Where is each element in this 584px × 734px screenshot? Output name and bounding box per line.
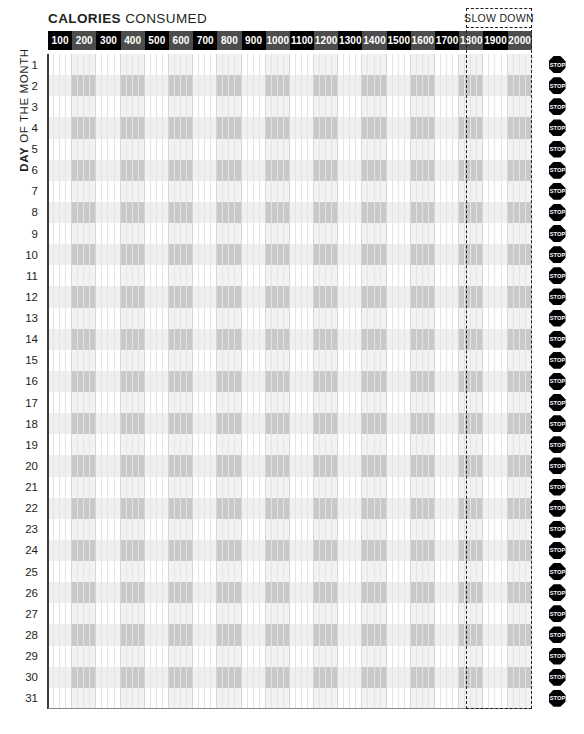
grid-subcell[interactable] [163, 603, 168, 624]
grid-subcell[interactable] [115, 202, 120, 223]
grid-subcell[interactable] [477, 413, 482, 434]
grid-cell[interactable] [435, 96, 459, 117]
table-row[interactable] [48, 54, 532, 75]
grid-cell[interactable] [121, 139, 145, 160]
grid-subcell[interactable] [211, 477, 216, 498]
table-row[interactable] [48, 371, 532, 392]
grid-subcell[interactable] [139, 561, 144, 582]
grid-subcell[interactable] [187, 181, 192, 202]
grid-subcell[interactable] [115, 350, 120, 371]
grid-cell[interactable] [508, 286, 532, 307]
grid-subcell[interactable] [429, 160, 434, 181]
grid-cell[interactable] [193, 667, 217, 688]
grid-subcell[interactable] [405, 181, 410, 202]
grid-subcell[interactable] [429, 603, 434, 624]
grid-subcell[interactable] [163, 75, 168, 96]
grid-subcell[interactable] [139, 667, 144, 688]
grid-subcell[interactable] [356, 540, 361, 561]
grid-subcell[interactable] [260, 54, 265, 75]
grid-subcell[interactable] [308, 413, 313, 434]
grid-cell[interactable] [48, 477, 72, 498]
grid-subcell[interactable] [260, 308, 265, 329]
grid-subcell[interactable] [115, 561, 120, 582]
grid-cell[interactable] [145, 540, 169, 561]
grid-cell[interactable] [387, 350, 411, 371]
grid-subcell[interactable] [429, 624, 434, 645]
grid-subcell[interactable] [308, 350, 313, 371]
grid-subcell[interactable] [308, 624, 313, 645]
grid-cell[interactable] [290, 244, 314, 265]
grid-cell[interactable] [242, 329, 266, 350]
grid-subcell[interactable] [477, 265, 482, 286]
grid-subcell[interactable] [332, 371, 337, 392]
grid-cell[interactable] [96, 329, 120, 350]
grid-cell[interactable] [242, 498, 266, 519]
grid-cell[interactable] [48, 202, 72, 223]
grid-cell[interactable] [72, 519, 96, 540]
grid-subcell[interactable] [115, 139, 120, 160]
grid-subcell[interactable] [381, 392, 386, 413]
grid-subcell[interactable] [187, 434, 192, 455]
grid-cell[interactable] [169, 603, 193, 624]
grid-cell[interactable] [459, 181, 483, 202]
grid-cell[interactable] [338, 265, 362, 286]
grid-cell[interactable] [459, 603, 483, 624]
grid-cell[interactable] [169, 434, 193, 455]
grid-subcell[interactable] [187, 117, 192, 138]
grid-subcell[interactable] [66, 498, 71, 519]
grid-subcell[interactable] [308, 582, 313, 603]
grid-cell[interactable] [483, 329, 507, 350]
grid-cell[interactable] [459, 139, 483, 160]
grid-subcell[interactable] [284, 646, 289, 667]
grid-subcell[interactable] [502, 561, 507, 582]
grid-cell[interactable] [508, 688, 532, 709]
grid-subcell[interactable] [115, 624, 120, 645]
grid-cell[interactable] [483, 646, 507, 667]
grid-cell[interactable] [290, 202, 314, 223]
grid-cell[interactable] [266, 603, 290, 624]
grid-cell[interactable] [411, 455, 435, 476]
grid-cell[interactable] [387, 75, 411, 96]
grid-cell[interactable] [459, 688, 483, 709]
grid-cell[interactable] [193, 286, 217, 307]
grid-subcell[interactable] [381, 667, 386, 688]
grid-cell[interactable] [48, 413, 72, 434]
grid-subcell[interactable] [163, 646, 168, 667]
grid-subcell[interactable] [405, 624, 410, 645]
grid-cell[interactable] [314, 160, 338, 181]
grid-cell[interactable] [483, 519, 507, 540]
grid-cell[interactable] [508, 455, 532, 476]
grid-cell[interactable] [314, 646, 338, 667]
grid-cell[interactable] [362, 350, 386, 371]
grid-cell[interactable] [217, 286, 241, 307]
grid-cell[interactable] [483, 350, 507, 371]
grid-subcell[interactable] [260, 603, 265, 624]
grid-cell[interactable] [266, 96, 290, 117]
grid-cell[interactable] [362, 667, 386, 688]
grid-cell[interactable] [387, 582, 411, 603]
grid-subcell[interactable] [477, 202, 482, 223]
grid-subcell[interactable] [235, 139, 240, 160]
grid-subcell[interactable] [332, 688, 337, 709]
grid-subcell[interactable] [526, 413, 531, 434]
grid-cell[interactable] [459, 582, 483, 603]
grid-subcell[interactable] [139, 265, 144, 286]
grid-subcell[interactable] [163, 308, 168, 329]
grid-subcell[interactable] [187, 139, 192, 160]
grid-cell[interactable] [72, 117, 96, 138]
grid-cell[interactable] [362, 646, 386, 667]
grid-subcell[interactable] [187, 603, 192, 624]
grid-subcell[interactable] [405, 667, 410, 688]
grid-subcell[interactable] [453, 181, 458, 202]
grid-cell[interactable] [483, 117, 507, 138]
grid-cell[interactable] [314, 477, 338, 498]
grid-cell[interactable] [193, 371, 217, 392]
grid-cell[interactable] [338, 603, 362, 624]
grid-subcell[interactable] [187, 688, 192, 709]
grid-cell[interactable] [338, 582, 362, 603]
grid-subcell[interactable] [332, 139, 337, 160]
grid-subcell[interactable] [284, 54, 289, 75]
grid-subcell[interactable] [477, 54, 482, 75]
grid-cell[interactable] [387, 286, 411, 307]
grid-cell[interactable] [121, 202, 145, 223]
